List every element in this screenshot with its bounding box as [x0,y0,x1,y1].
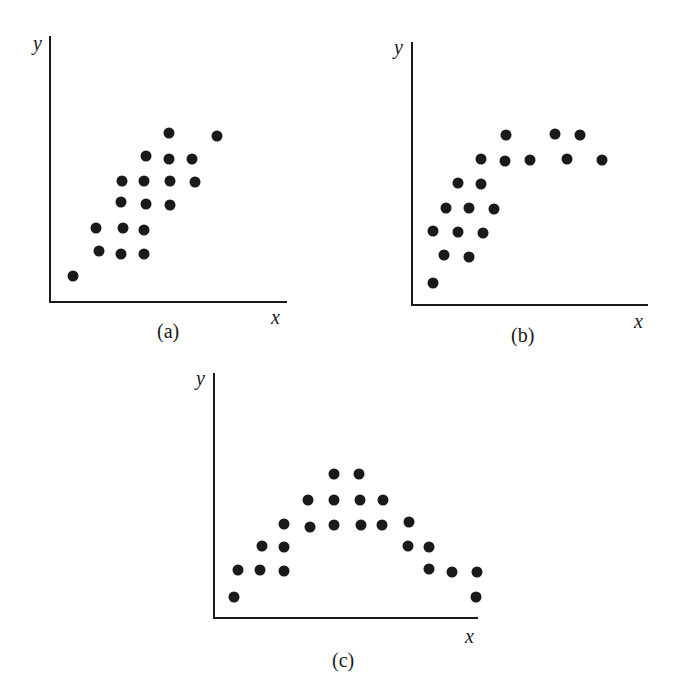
panel-c: y x (c) [194,367,483,672]
data-point [550,129,561,140]
data-point [424,542,435,553]
data-point [403,541,414,552]
data-point [139,249,150,260]
data-point [91,223,102,234]
data-point [257,541,268,552]
data-point [116,197,127,208]
data-point [428,278,439,289]
data-point [378,495,389,506]
data-point [212,131,223,142]
panel-b-caption: (b) [511,324,534,347]
data-point [329,495,340,506]
data-point [94,246,105,257]
panel-a-caption: (a) [157,320,179,343]
data-point [597,155,608,166]
panel-b-points [428,129,608,289]
data-point [404,517,415,528]
data-point [428,226,439,237]
data-point [354,469,365,480]
data-point [329,520,340,531]
data-point [439,250,450,261]
data-point [472,567,483,578]
data-point [165,200,176,211]
data-point [68,271,79,282]
data-point [233,565,244,576]
data-point [117,176,128,187]
data-point [229,592,240,603]
panel-a-points [68,128,223,282]
data-point [303,495,314,506]
panel-b-axes [412,42,648,305]
panel-b-y-label: y [392,36,403,59]
data-point [355,495,366,506]
data-point [424,564,435,575]
data-point [476,154,487,165]
scatter-diagram-canvas: y x (a) y x (b) y x (c) [0,0,681,699]
panel-c-points [229,469,483,603]
data-point [501,130,512,141]
data-point [141,151,152,162]
data-point [190,177,201,188]
data-point [164,154,175,165]
data-point [471,592,482,603]
data-point [141,199,152,210]
data-point [453,227,464,238]
panel-c-x-label: x [464,625,474,647]
data-point [464,203,475,214]
data-point [279,542,290,553]
data-point [489,204,500,215]
panel-a-x-label: x [270,306,280,328]
data-point [329,469,340,480]
data-point [279,519,290,530]
data-point [164,128,175,139]
data-point [255,565,266,576]
data-point [562,154,573,165]
data-point [453,178,464,189]
panel-a: y x (a) [31,32,287,343]
data-point [500,156,511,167]
data-point [139,225,150,236]
panel-a-y-label: y [31,32,42,55]
panel-c-caption: (c) [332,649,354,672]
data-point [356,520,367,531]
panel-a-axes [50,36,287,302]
panel-b: y x (b) [392,36,648,347]
data-point [118,223,129,234]
data-point [525,155,536,166]
panel-b-x-label: x [633,310,643,332]
data-point [116,249,127,260]
data-point [165,176,176,187]
data-point [476,179,487,190]
data-point [478,228,489,239]
panel-c-axes [214,373,478,618]
data-point [279,566,290,577]
data-point [305,522,316,533]
data-point [187,154,198,165]
panel-c-y-label: y [194,367,205,390]
data-point [464,252,475,263]
data-point [575,130,586,141]
data-point [441,203,452,214]
data-point [447,567,458,578]
data-point [139,176,150,187]
data-point [377,520,388,531]
